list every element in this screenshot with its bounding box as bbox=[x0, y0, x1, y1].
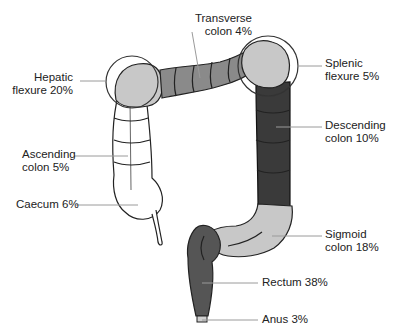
label-descending-colon: Descending colon 10% bbox=[325, 119, 386, 145]
label-rectum: Rectum 38% bbox=[262, 276, 328, 289]
label-ascending-colon: Ascending colon 5% bbox=[22, 148, 76, 174]
descending-colon-segment bbox=[256, 82, 290, 210]
label-sigmoid-colon: Sigmoid colon 18% bbox=[325, 228, 379, 254]
label-line: Transverse bbox=[195, 12, 252, 25]
label-splenic-flexure: Splenic flexure 5% bbox=[325, 57, 379, 83]
label-line: colon 4% bbox=[195, 25, 252, 38]
anus-segment bbox=[197, 316, 207, 322]
label-anus: Anus 3% bbox=[262, 313, 308, 326]
label-hepatic-flexure: Hepatic flexure 20% bbox=[12, 71, 73, 97]
hepatic-flexure-segment bbox=[106, 56, 162, 108]
rectum-segment bbox=[187, 225, 220, 316]
label-line: colon 10% bbox=[325, 132, 386, 145]
label-line: Anus 3% bbox=[262, 313, 308, 326]
label-line: colon 18% bbox=[325, 241, 379, 254]
label-line: Splenic bbox=[325, 57, 379, 70]
splenic-flexure-segment bbox=[238, 36, 298, 96]
label-line: Descending bbox=[325, 119, 386, 132]
label-line: Hepatic bbox=[12, 71, 73, 84]
label-line: Sigmoid bbox=[325, 228, 379, 241]
label-line: flexure 20% bbox=[12, 84, 73, 97]
label-line: Caecum 6% bbox=[16, 198, 79, 211]
label-line: flexure 5% bbox=[325, 70, 379, 83]
label-line: Ascending bbox=[22, 148, 76, 161]
sigmoid-colon-segment bbox=[210, 204, 293, 257]
label-line: Rectum 38% bbox=[262, 276, 328, 289]
ascending-colon-segment bbox=[113, 96, 163, 245]
label-caecum: Caecum 6% bbox=[16, 198, 79, 211]
label-line: colon 5% bbox=[22, 161, 76, 174]
